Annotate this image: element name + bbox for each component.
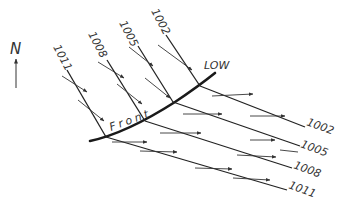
- isobar-label-top-1011: 1011: [50, 42, 75, 73]
- wind-arrows-behind-front: [62, 45, 192, 121]
- low-pressure-label: LOW: [204, 59, 230, 72]
- isobar-label-right-1008: 1008: [292, 159, 323, 181]
- weather-front-diagram: N: [0, 0, 339, 205]
- isobar-label-right-1002: 1002: [305, 116, 336, 138]
- isobar-label-right-1005: 1005: [299, 138, 330, 160]
- front-line: [90, 73, 215, 141]
- isobar-1002: [166, 35, 305, 127]
- isobar-label-right-1011: 1011: [287, 179, 318, 201]
- isobar-label-top-1008: 1008: [85, 29, 110, 60]
- isobar-label-top-1005: 1005: [116, 18, 141, 49]
- north-arrow-icon: N: [10, 40, 21, 88]
- north-label: N: [10, 40, 21, 58]
- isobar-label-top-1002: 1002: [148, 6, 173, 37]
- wind-arrows-ahead-of-front: [112, 94, 298, 180]
- front-label: Front: [108, 107, 154, 134]
